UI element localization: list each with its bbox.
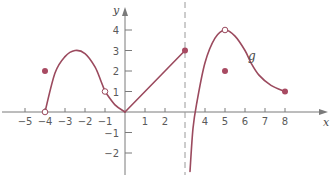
x-tick-label: −5 [18,116,33,127]
curve-hump-left [45,50,105,112]
x-tick-label: −1 [98,116,113,127]
x-axis-label: x [323,116,330,129]
x-tick-label: 8 [282,116,288,127]
x-arrow-icon [319,109,328,115]
closed-point-dot [282,89,288,95]
x-tick-label: 5 [222,116,228,127]
y-tick-label: −2 [104,148,119,159]
y-tick-label: 1 [113,87,119,98]
curve-line-to-3 [125,51,185,113]
x-tick-label: 2 [162,116,168,127]
x-tick-label: 6 [242,116,248,127]
closed-point-dot [182,48,188,54]
x-axis: −5−4−3−2−11245678x [2,108,330,129]
x-tick-label: −4 [38,116,53,127]
open-point-circle [42,109,48,115]
y-axis-label: y [112,4,120,17]
y-tick-label: −1 [104,128,119,139]
curve-right-branch [190,30,285,171]
labels: g [248,49,256,63]
y-tick-label: 2 [113,66,119,77]
function-graph: −5−4−3−2−11245678x −2−11234y g [0,0,334,175]
function-label-g: g [248,49,256,63]
closed-point-dot [42,68,48,74]
x-tick-label: 7 [262,116,268,127]
y-tick-label: 4 [113,25,119,36]
y-arrow-icon [122,7,128,16]
y-axis: −2−11234y [104,4,132,175]
open-point-circle [222,27,228,33]
closed-point-dot [222,68,228,74]
x-tick-label: 1 [142,116,148,127]
x-tick-label: −3 [58,116,73,127]
y-tick-label: 3 [113,46,119,57]
x-tick-label: −2 [78,116,93,127]
open-point-circle [102,89,108,95]
x-tick-label: 4 [202,116,208,127]
